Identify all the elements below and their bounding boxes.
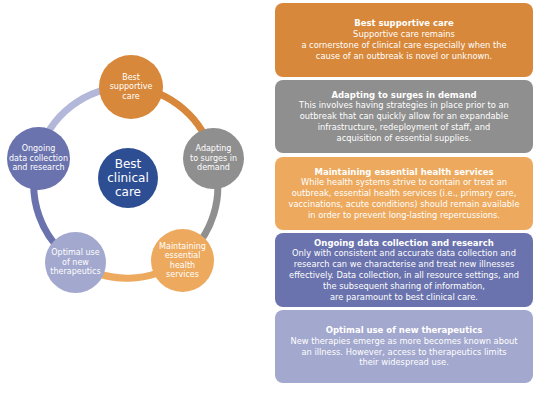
- panel-best-supportive-care: Best supportive care Supportive care rem…: [275, 3, 533, 77]
- panel-adapting-to-surges: Adapting to surges in demand This involv…: [275, 80, 533, 153]
- center-label: Best clinical care: [107, 157, 149, 199]
- panel-title: Adapting to surges in demand: [281, 90, 527, 101]
- panel-body: While health systems strive to contain o…: [281, 177, 527, 220]
- node-ongoing-data-collection: Ongoing data collection and research: [7, 127, 70, 190]
- node-label: Adapting to surges in demand: [190, 144, 237, 173]
- clinical-care-cycle-diagram: Best supportive care Adapting to surges …: [0, 0, 270, 395]
- node-label: Best supportive care: [110, 73, 153, 102]
- node-maintaining-essential-services: Maintaining essential health services: [151, 229, 214, 292]
- panel-title: Maintaining essential health services: [281, 167, 527, 178]
- panel-title: Ongoing data collection and research: [281, 238, 527, 249]
- panel-body: Only with consistent and accurate data c…: [281, 248, 527, 302]
- node-best-supportive-care: Best supportive care: [99, 55, 163, 119]
- panel-optimal-use-therapeutics: Optimal use of new therapeutics New ther…: [275, 310, 533, 383]
- node-label: Maintaining essential health services: [159, 242, 206, 280]
- panel-ongoing-data-collection: Ongoing data collection and research Onl…: [275, 233, 533, 307]
- panel-body: New therapies emerge as more becomes kno…: [281, 336, 527, 368]
- node-label: Ongoing data collection and research: [9, 144, 68, 173]
- panel-body: Supportive care remains a cornerstone of…: [281, 29, 527, 61]
- panel-maintaining-essential-services: Maintaining essential health services Wh…: [275, 157, 533, 230]
- node-optimal-use-therapeutics: Optimal use of new therapeutics: [45, 232, 106, 293]
- panel-title: Best supportive care: [281, 18, 527, 29]
- node-best-clinical-care: Best clinical care: [98, 148, 158, 208]
- panel-body: This involves having strategies in place…: [281, 100, 527, 143]
- node-label: Optimal use of new therapeutics: [50, 248, 100, 277]
- panel-title: Optimal use of new therapeutics: [281, 325, 527, 336]
- node-adapting-to-surges: Adapting to surges in demand: [183, 128, 244, 189]
